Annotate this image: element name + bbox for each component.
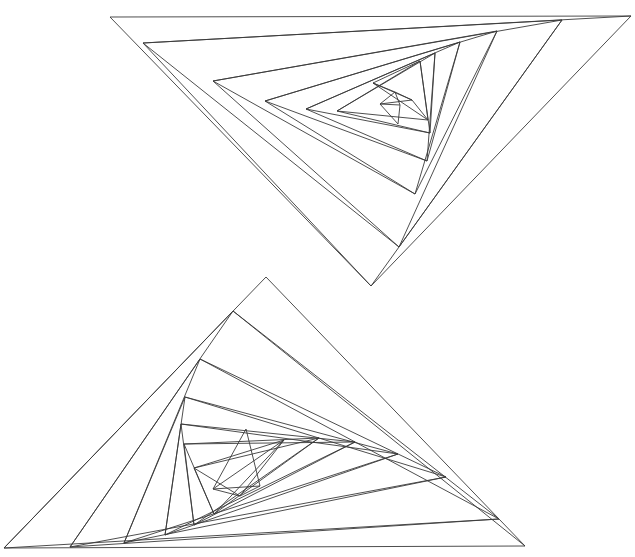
spiral-segment (4, 311, 233, 548)
spiral-segment (185, 397, 446, 477)
spiral-segment (70, 359, 200, 547)
spiral-segment (265, 101, 427, 161)
spiral-segment (213, 429, 246, 489)
spiral-segment (306, 109, 427, 161)
spiral-segment (181, 424, 355, 442)
spiral-segment (399, 31, 497, 247)
spiral-segment (337, 111, 428, 120)
spiral-segment (399, 20, 562, 247)
spiral-segment (185, 397, 398, 454)
outer-triangle (110, 16, 631, 286)
spiral-segment (213, 81, 415, 194)
spiral-segment (4, 519, 499, 548)
lower-spiral-triangle (4, 277, 525, 548)
spiral-segment (214, 438, 319, 514)
spiral-segment (233, 311, 525, 546)
spiral-segment (194, 468, 214, 514)
spiral-segment (70, 519, 499, 547)
upper-spiral-triangle (110, 16, 631, 286)
spiral-segment (398, 105, 400, 124)
spiral-segment (143, 20, 562, 43)
spiral-segment (165, 424, 181, 535)
spiral-segment (337, 61, 420, 111)
spiral-segment (306, 109, 430, 133)
spiral-segment (143, 43, 399, 247)
spiral-segment (265, 42, 460, 101)
spiral-segment (233, 311, 499, 519)
spiral-triangles-diagram (0, 0, 635, 557)
spiral-segment (373, 61, 420, 83)
spiral-segment (337, 111, 430, 133)
spiral-segment (380, 104, 398, 124)
spiral-segment (124, 454, 398, 543)
spiral-segment (430, 53, 435, 133)
outer-triangle (4, 277, 525, 548)
spiral-segment (124, 397, 185, 543)
spiral-segment (213, 489, 240, 496)
spiral-segment (213, 81, 399, 247)
spiral-segment (213, 486, 260, 489)
spiral-segment (380, 104, 400, 105)
spiral-segment (200, 359, 446, 477)
